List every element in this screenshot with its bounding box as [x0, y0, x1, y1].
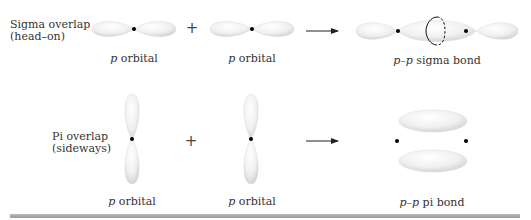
nucleus-icon [249, 137, 253, 141]
sigma-bond [356, 17, 518, 45]
p-orbital-horizontal-2 [210, 21, 294, 36]
nucleus-icon [396, 29, 400, 33]
caption-sigma-bond: p–p sigma bond [393, 54, 481, 67]
pi-bond [395, 110, 468, 172]
row-label-line: (head–on) [10, 31, 90, 43]
row-label-pi: Pi overlap (sideways) [52, 131, 111, 155]
row-label-line: (sideways) [52, 143, 111, 155]
p-orbital-horizontal-1 [92, 21, 176, 36]
caption-p-orbital: p orbital [228, 52, 275, 65]
nucleus-icon [395, 139, 399, 143]
caption-p-orbital: p orbital [108, 195, 155, 208]
caption-p-orbital: p orbital [110, 52, 157, 65]
row-label-sigma: Sigma overlap (head–on) [10, 19, 90, 43]
nucleus-icon [464, 29, 468, 33]
plus-operator: + [186, 19, 199, 37]
caption-p-orbital: p orbital [228, 195, 275, 208]
p-orbital-vertical-2 [244, 94, 258, 184]
bottom-rule [10, 214, 520, 218]
nucleus-icon [464, 139, 468, 143]
nucleus-icon [130, 137, 134, 141]
nucleus-icon [250, 27, 254, 31]
caption-pi-bond: p–p pi bond [400, 196, 465, 209]
nucleus-icon [132, 27, 136, 31]
p-orbital-vertical-1 [125, 94, 139, 184]
plus-operator: + [185, 132, 198, 150]
